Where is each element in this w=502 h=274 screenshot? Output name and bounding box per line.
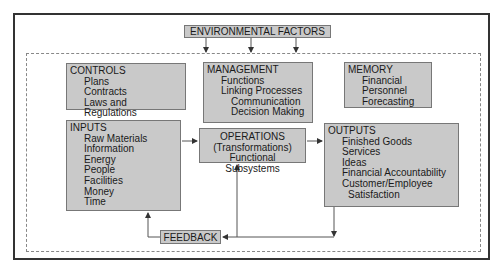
memory-item: Forecasting	[348, 97, 428, 108]
environmental-factors-box: ENVIRONMENTAL FACTORS	[184, 25, 331, 38]
memory-box: MEMORY Financial Personnel Forecasting	[344, 62, 432, 108]
outputs-item: Customer/Employee	[328, 179, 455, 190]
management-box: MANAGEMENT Functions Linking Processes C…	[203, 62, 313, 123]
inputs-item: Facilities	[70, 176, 177, 187]
outputs-title: OUTPUTS	[328, 126, 455, 137]
management-subitem: Decision Making	[207, 107, 309, 118]
inputs-item: Time	[70, 197, 177, 208]
operations-subsystems: Functional Subsystems	[203, 153, 302, 174]
feedback-box: FEEDBACK	[160, 230, 221, 244]
operations-title: OPERATIONS	[203, 132, 302, 143]
inputs-title: INPUTS	[70, 123, 177, 134]
controls-title: CONTROLS	[70, 66, 182, 77]
memory-title: MEMORY	[348, 65, 428, 76]
controls-item: Laws and Regulations	[70, 98, 182, 119]
outputs-item-continuation: Satisfaction	[328, 190, 455, 201]
outputs-box: OUTPUTS Finished Goods Services Ideas Fi…	[324, 123, 459, 207]
environmental-factors-label: ENVIRONMENTAL FACTORS	[190, 26, 325, 37]
feedback-label: FEEDBACK	[164, 232, 218, 243]
operations-box: OPERATIONS (Transformations) Functional …	[199, 128, 306, 163]
inputs-box: INPUTS Raw Materials Information Energy …	[66, 120, 181, 211]
controls-box: CONTROLS Plans Contracts Laws and Regula…	[66, 63, 186, 110]
management-title: MANAGEMENT	[207, 65, 309, 76]
